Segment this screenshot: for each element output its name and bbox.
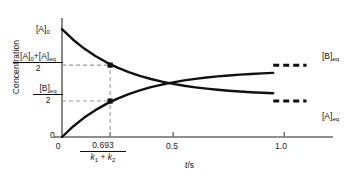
series-end-label-beq-text: [B] bbox=[322, 51, 332, 61]
data-point-marker bbox=[108, 98, 113, 103]
guide-lines-group bbox=[62, 65, 307, 137]
avg-num-a-sub: 0 bbox=[31, 56, 34, 62]
data-point-markers-group bbox=[108, 63, 113, 104]
kinetics-relaxation-chart: Concentration [A]0 [A]0+[A]eq 2 [B]eq 2 … bbox=[0, 0, 351, 181]
x-tick-label-0point5: 0.5 bbox=[160, 141, 184, 151]
data-point-marker bbox=[108, 63, 113, 68]
series-end-label-beq: [B]eq bbox=[322, 52, 339, 61]
y-label-half-beq-denominator: 2 bbox=[33, 95, 63, 105]
x-tick-label-0: 0 bbox=[53, 141, 63, 151]
y-axis-origin-label: 0 bbox=[50, 131, 55, 140]
beq-num: [B] bbox=[39, 83, 49, 93]
series-curves-group bbox=[62, 29, 273, 137]
x-axis-title: t/s bbox=[185, 161, 194, 170]
series-end-label-aeq-text: [A] bbox=[322, 111, 332, 121]
series-end-label-beq-subscript: eq bbox=[332, 56, 339, 62]
y-label-average-numerator: [A]0+[A]eq bbox=[13, 51, 63, 61]
k-plus-sign: + bbox=[98, 152, 108, 162]
avg-num-a: [A] bbox=[20, 51, 30, 61]
y-label-a-initial: [A]0 bbox=[36, 25, 50, 34]
x-tick-half-numerator: 0.693 bbox=[80, 140, 126, 150]
x-tick-label-half-relaxation-time: 0.693 k1 + k2 bbox=[80, 140, 126, 162]
y-label-average-denominator: 2 bbox=[13, 63, 63, 73]
avg-num-aeq-sub: eq bbox=[49, 56, 56, 62]
k2-subscript: 2 bbox=[112, 157, 115, 163]
y-label-half-beq: [B]eq 2 bbox=[33, 83, 63, 105]
y-label-half-beq-numerator: [B]eq bbox=[33, 83, 63, 93]
y-label-a-initial-subscript: 0 bbox=[46, 29, 49, 35]
axes-group bbox=[54, 18, 333, 137]
x-tick-half-denominator: k1 + k2 bbox=[80, 152, 126, 162]
x-tick-label-1point0: 1.0 bbox=[269, 141, 293, 151]
y-label-average-concentration: [A]0+[A]eq 2 bbox=[13, 51, 63, 73]
beq-num-sub: eq bbox=[50, 88, 57, 94]
x-axis-title-unit: /s bbox=[187, 160, 194, 170]
series-curve-b bbox=[62, 73, 273, 137]
series-end-label-aeq-subscript: eq bbox=[332, 116, 339, 122]
avg-num-plus: +[A] bbox=[34, 51, 49, 61]
y-label-a-initial-text: [A] bbox=[36, 24, 46, 34]
k1-subscript: 1 bbox=[95, 157, 98, 163]
series-end-label-aeq: [A]eq bbox=[322, 112, 339, 121]
